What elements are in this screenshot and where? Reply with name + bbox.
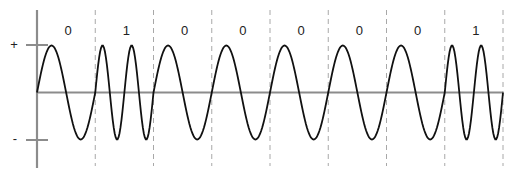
bit-label: 0 [239, 23, 246, 38]
positive-label: + [10, 37, 18, 52]
bit-label: 0 [298, 23, 305, 38]
negative-label: - [13, 131, 17, 146]
bit-label: 0 [181, 23, 188, 38]
bit-label: 0 [65, 23, 72, 38]
bit-label: 0 [356, 23, 363, 38]
bit-label: 1 [472, 23, 479, 38]
bit-labels: 01000001 [65, 23, 480, 38]
fsk-diagram: + - 01000001 [0, 0, 514, 175]
bit-label: 0 [414, 23, 421, 38]
bit-label: 1 [123, 23, 130, 38]
